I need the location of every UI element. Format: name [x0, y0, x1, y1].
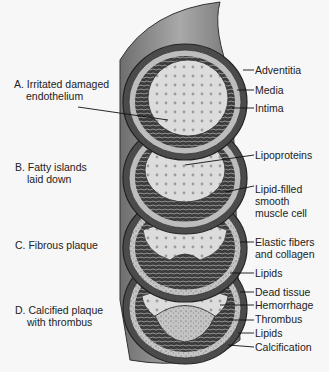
- elastic-line1: Elastic fibers: [255, 236, 315, 248]
- lipid-filled-line1: Lipid-filled: [255, 183, 307, 195]
- stage-d-label: D. Calcified plaque with thrombus: [15, 304, 103, 328]
- stage-d-line1: D. Calcified plaque: [15, 304, 103, 316]
- lipid-filled-line3: muscle cell: [255, 207, 307, 219]
- stage-b-line2: laid down: [15, 173, 87, 185]
- stage-c-label: C. Fibrous plaque: [15, 239, 98, 251]
- intima-label: Intima: [255, 102, 284, 114]
- stage-a-line2: endothelium: [14, 90, 109, 102]
- stage-c-line1: C. Fibrous plaque: [15, 239, 98, 251]
- elastic-line2: and collagen: [255, 248, 315, 260]
- media-label: Media: [255, 84, 284, 96]
- stage-a-label: A. Irritated damaged endothelium: [14, 78, 109, 102]
- adventitia-label: Adventitia: [255, 64, 301, 76]
- elastic-fibers-collagen-label: Elastic fibers and collagen: [255, 236, 315, 260]
- thrombus-label: Thrombus: [255, 313, 302, 325]
- calcification-label: Calcification: [255, 341, 312, 353]
- stage-a-section: [123, 44, 247, 160]
- stage-d-line2: with thrombus: [15, 316, 103, 328]
- lipids-c-label: Lipids: [255, 267, 282, 279]
- lipid-filled-smooth-muscle-cell-label: Lipid-filled smooth muscle cell: [255, 183, 307, 219]
- lipids-d-label: Lipids: [255, 327, 282, 339]
- lipid-filled-line2: smooth: [255, 195, 307, 207]
- stage-b-line1: B. Fatty islands: [15, 161, 87, 173]
- stage-b-label: B. Fatty islands laid down: [15, 161, 87, 185]
- hemorrhage-label: Hemorrhage: [255, 299, 313, 311]
- lipoproteins-label: Lipoproteins: [255, 149, 312, 161]
- stage-a-line1: A. Irritated damaged: [14, 78, 109, 90]
- dead-tissue-label: Dead tissue: [255, 286, 310, 298]
